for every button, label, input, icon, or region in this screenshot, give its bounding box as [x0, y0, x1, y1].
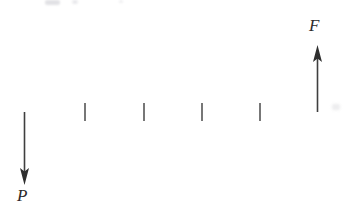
top-edge-artifact	[45, 0, 60, 5]
force-label-F: F	[309, 17, 319, 34]
right-edge-artifact	[332, 104, 340, 110]
beam-force-diagram: F P	[0, 0, 348, 218]
force-label-P: P	[17, 187, 27, 204]
top-edge-artifact	[119, 0, 123, 3]
diagram-canvas	[0, 0, 348, 218]
force-arrow-F	[313, 45, 322, 112]
top-edge-artifact	[72, 0, 78, 4]
force-arrow-P	[20, 112, 29, 185]
